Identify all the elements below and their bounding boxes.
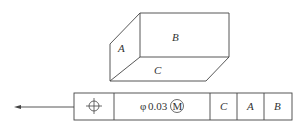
modifier-letter: M — [173, 100, 183, 112]
feature-control-frame — [74, 93, 292, 120]
face-label-a: A — [117, 42, 125, 54]
face-a-outline — [110, 13, 140, 81]
tolerance-value: 0.03 — [148, 100, 168, 112]
box-drawing — [110, 13, 229, 81]
arrowhead-icon — [14, 105, 21, 109]
datum-primary: C — [220, 100, 228, 112]
face-b-outline — [140, 13, 229, 57]
position-symbol-icon — [86, 98, 102, 114]
datum-secondary: A — [246, 100, 254, 112]
face-label-c: C — [154, 64, 162, 76]
leader-arrow — [14, 105, 74, 109]
tolerance-prefix: φ — [140, 100, 146, 112]
gdt-diagram: A B C φ 0.03 M C A B — [0, 0, 304, 134]
datum-tertiary: B — [274, 100, 281, 112]
face-label-b: B — [172, 31, 179, 43]
face-c-outline — [110, 57, 229, 81]
